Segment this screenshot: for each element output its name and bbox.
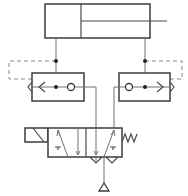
solenoid-actuator-icon	[25, 128, 48, 142]
right-junction-dot	[143, 59, 147, 63]
right-check-ball-icon	[126, 84, 133, 91]
spring-return-icon	[122, 134, 137, 142]
pressure-source-icon	[99, 183, 109, 191]
left-valve-dot	[54, 85, 58, 89]
pneumatic-diagram	[0, 0, 188, 196]
right-exhaust-triangle-icon	[106, 157, 118, 163]
left-quick-exhaust-valve	[28, 73, 84, 101]
cylinder	[45, 4, 167, 38]
directional-valve	[25, 128, 137, 163]
left-check-ball-icon	[68, 84, 75, 91]
right-valve-dot	[143, 85, 147, 89]
right-quick-exhaust-valve	[119, 73, 174, 101]
left-junction-dot	[54, 59, 58, 63]
